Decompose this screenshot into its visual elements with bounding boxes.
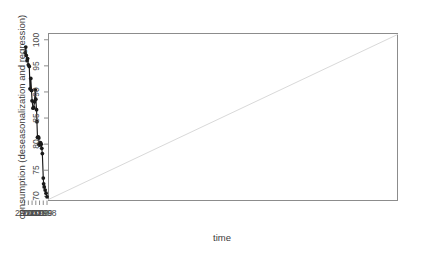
y-axis-title: consumption (deseasonalization and regre… [16,15,27,219]
regression-line [49,35,398,200]
y-tick-label: 70 [31,191,41,201]
y-tick-label: 90 [31,87,41,97]
y-tick-label: 95 [31,61,41,71]
y-tick-label: 85 [31,113,41,123]
y-tick-label: 75 [31,165,41,175]
y-axis-ticks [44,40,49,197]
plot-canvas [0,0,425,254]
chart-figure: 1998199920002001200220032004 70758085909… [0,0,425,254]
x-axis-title: time [213,232,231,243]
y-tick-label: 80 [31,139,41,149]
y-tick-label: 100 [31,33,41,47]
x-axis-ticks [25,201,47,206]
